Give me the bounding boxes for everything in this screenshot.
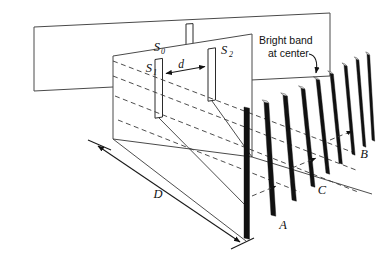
fringe-band	[330, 73, 342, 164]
slit-one-label: S	[146, 61, 153, 75]
source-slit-label: S	[154, 40, 161, 54]
fringe-band	[344, 65, 355, 155]
arrow-to-band-b	[330, 131, 352, 140]
callout-line-1: Bright band	[259, 34, 313, 46]
D-arrow-line	[98, 146, 240, 242]
source-slit-subscript: 0	[161, 47, 165, 56]
screen-distance-dimension: D	[88, 140, 254, 249]
d-tick-near	[88, 140, 111, 150]
diagram-canvas: d D Bright band at center S 0 S 1 S 2 A	[0, 0, 390, 261]
slit-one-subscript: 1	[153, 68, 157, 77]
screen-distance-label: D	[152, 187, 162, 201]
floor-edge-near	[113, 139, 246, 241]
callout-line-2: at center	[268, 47, 309, 59]
slit-s2-aperture	[208, 48, 216, 101]
fringe-label-a: A	[278, 218, 287, 232]
fringe-label-c: C	[318, 183, 327, 197]
fringe-band	[244, 107, 250, 239]
fringe-band	[356, 59, 366, 147]
slit-separation-label: d	[178, 58, 184, 70]
interference-fringe-bands	[244, 52, 375, 239]
fringe-band	[316, 79, 330, 174]
d-tick-far	[231, 238, 254, 249]
slit-two-label: S	[221, 43, 228, 57]
double-slit-diagram: d D Bright band at center S 0 S 1 S 2 A	[0, 0, 390, 261]
slit-two-subscript: 2	[229, 50, 233, 59]
fringe-band	[367, 54, 375, 141]
fringe-label-b: B	[360, 147, 368, 161]
fringe-band	[283, 95, 296, 201]
